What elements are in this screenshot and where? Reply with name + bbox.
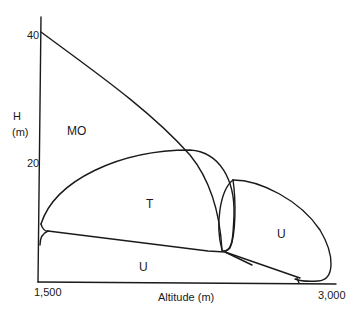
lower-u-boundary-branch xyxy=(225,252,252,265)
y-tick-20: 20 xyxy=(27,157,39,169)
x-axis xyxy=(38,282,336,284)
y-tick-40: 40 xyxy=(27,29,39,41)
left-cusp xyxy=(41,224,48,231)
left-cusp-lower xyxy=(40,231,48,245)
region-u-bottom-label: U xyxy=(139,261,148,274)
x-tick-3000: 3,000 xyxy=(318,289,346,301)
lower-u-boundary xyxy=(48,231,300,278)
inner-lens-right xyxy=(222,180,235,251)
t-dome-curve xyxy=(41,150,234,251)
y-axis-label-h: H xyxy=(13,110,21,122)
x-tick-1500: 1,500 xyxy=(34,286,62,298)
region-t-label: T xyxy=(146,198,153,211)
mo-boundary-curve xyxy=(41,32,222,250)
y-axis-label-unit: (m) xyxy=(12,126,29,138)
region-u-right-label: U xyxy=(277,228,286,241)
region-mo-label: MO xyxy=(67,125,86,138)
end-tick xyxy=(297,278,299,283)
x-axis-label: Altitude (m) xyxy=(158,291,214,303)
diagram-canvas xyxy=(0,0,357,317)
